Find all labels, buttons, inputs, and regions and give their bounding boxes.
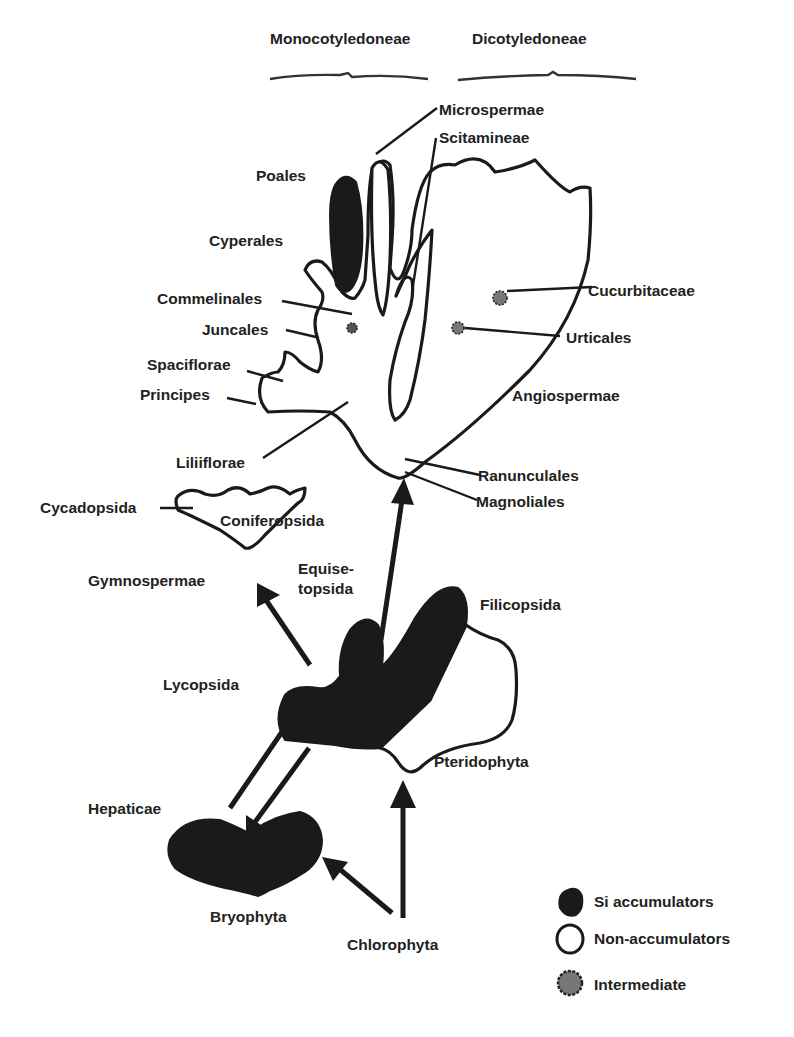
label-urticales: Urticales <box>566 329 631 347</box>
label-principes: Principes <box>140 386 210 404</box>
label-gymnospermae: Gymnospermae <box>88 572 205 590</box>
bryophyta-shape <box>168 812 322 896</box>
intermediate-marker-cucurbitaceae <box>493 291 507 305</box>
intermediate-marker-urticales <box>452 322 464 334</box>
legend-label-non-accumulators: Non-accumulators <box>594 930 730 948</box>
label-dicotyledoneae: Dicotyledoneae <box>472 30 587 48</box>
label-bryophyta: Bryophyta <box>210 908 287 926</box>
label-spaciflorae: Spaciflorae <box>147 356 231 374</box>
poales-shape <box>330 177 362 292</box>
label-lycopsida: Lycopsida <box>163 676 239 694</box>
label-monocotyledoneae: Monocotyledoneae <box>270 30 410 48</box>
label-scitamineae: Scitamineae <box>439 129 529 147</box>
label-angiospermae: Angiospermae <box>512 387 620 405</box>
label-liliiflorae: Liliiflorae <box>176 454 245 472</box>
label-poales: Poales <box>256 167 306 185</box>
intermediate-marker-commelinales <box>347 323 357 333</box>
label-coniferopsida: Coniferopsida <box>220 512 324 530</box>
brace-monocotyledoneae <box>270 73 428 79</box>
legend-symbol-non-accumulators <box>557 925 583 953</box>
label-magnoliales: Magnoliales <box>476 493 565 511</box>
legend-label-intermediate: Intermediate <box>594 976 686 994</box>
legend-label-si-accumulators: Si accumulators <box>594 893 714 911</box>
label-pteridophyta: Pteridophyta <box>434 753 529 771</box>
legend-symbol-intermediate <box>558 971 582 995</box>
label-microspermae: Microspermae <box>439 101 544 119</box>
label-ranunculales: Ranunculales <box>478 467 579 485</box>
label-commelinales: Commelinales <box>157 290 262 308</box>
brace-dicotyledoneae <box>458 72 636 80</box>
label-equisetopsida-line2: topsida <box>298 580 353 598</box>
label-juncales: Juncales <box>202 321 268 339</box>
label-filicopsida: Filicopsida <box>480 596 561 614</box>
label-cucurbitaceae: Cucurbitaceae <box>588 282 695 300</box>
phylogeny-diagram <box>0 0 794 1037</box>
label-hepaticae: Hepaticae <box>88 800 161 818</box>
label-cyperales: Cyperales <box>209 232 283 250</box>
label-cycadopsida: Cycadopsida <box>40 499 136 517</box>
label-chlorophyta: Chlorophyta <box>347 936 438 954</box>
label-equisetopsida-line1: Equise- <box>298 560 354 578</box>
legend-symbol-si-accumulators <box>559 889 582 916</box>
